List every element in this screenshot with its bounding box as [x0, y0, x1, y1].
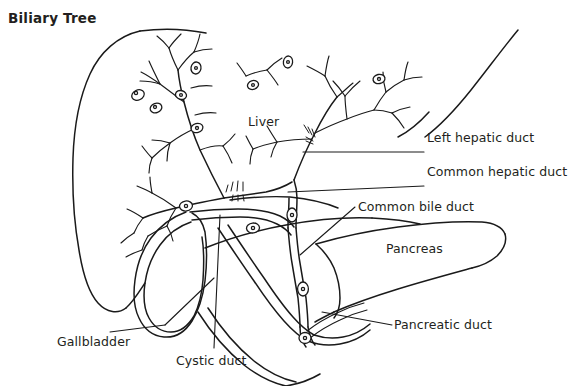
label-common-hepatic-duct: Common hepatic duct — [427, 166, 567, 179]
leader-common-bile-duct — [300, 207, 355, 255]
pancreas-outline — [315, 222, 506, 322]
cystic-duct-path — [190, 209, 294, 235]
label-pancreatic-duct: Pancreatic duct — [394, 319, 492, 332]
biliary-tree-figure: Biliary Tree Liver Left hepatic duct Com… — [0, 0, 578, 386]
leader-gallbladder-upper — [165, 278, 214, 325]
duct-nodules — [130, 55, 386, 343]
leader-cystic-duct — [214, 215, 220, 348]
label-liver: Liver — [248, 116, 279, 129]
leader-gallbladder — [110, 325, 165, 332]
label-gallbladder: Gallbladder — [57, 336, 130, 349]
page-title: Biliary Tree — [8, 10, 97, 26]
liver-outline — [73, 29, 206, 311]
liver-right-edge — [398, 30, 518, 137]
intrahepatic-ducts-left — [121, 34, 235, 257]
label-pancreas: Pancreas — [386, 243, 443, 256]
label-cystic-duct: Cystic duct — [176, 355, 247, 368]
gallbladder-outline — [134, 212, 206, 337]
leader-common-hepatic-duct — [288, 186, 424, 192]
label-left-hepatic-duct: Left hepatic duct — [427, 132, 534, 145]
label-common-bile-duct: Common bile duct — [358, 201, 474, 214]
